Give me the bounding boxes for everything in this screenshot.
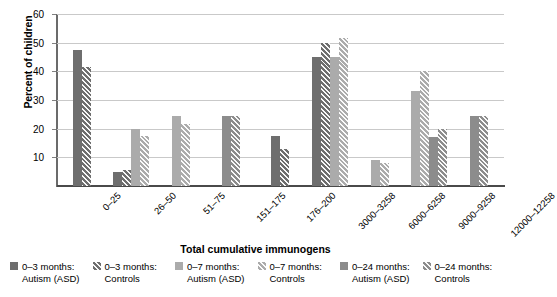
legend-swatch-icon [175,262,183,270]
x-tick-label: 151–175 [254,190,288,224]
legend-swatch-icon [10,262,18,270]
legend-label: 0–24 months: Autism (ASD) [352,261,410,284]
bar [140,136,149,186]
bar [122,170,131,186]
legend-item[interactable]: 0–7 months: Autism (ASD) [175,261,258,284]
legend-label: 0–24 months: Controls [435,261,493,284]
legend-item[interactable]: 0–24 months: Autism (ASD) [340,261,423,284]
x-tick-label: 6000–6258 [406,190,447,231]
legend-label: 0–7 months: Autism (ASD) [187,261,245,284]
bar [479,116,488,186]
legend-item[interactable]: 0–3 months: Controls [93,261,176,284]
y-tick-label: 60 [0,9,44,20]
bar [371,160,380,186]
x-tick-label: 12000–12258 [508,190,557,239]
y-tick-label: 20 [0,123,44,134]
legend-swatch-icon [258,262,266,270]
bar-group [355,14,405,186]
bar-group [107,14,157,186]
x-tick-label: 0–25 [100,190,123,213]
legend-label: 0–3 months: Autism (ASD) [22,261,80,284]
bar-group [57,14,107,186]
bar-group [305,14,355,186]
bar [280,149,289,186]
bar [339,38,348,186]
x-tick-label: 26–50 [151,190,177,216]
bar [312,57,321,186]
bar [438,129,447,186]
x-tick-label: 51–75 [201,190,227,216]
legend-swatch-icon [423,262,431,270]
x-tick-label: 176–200 [303,190,337,224]
bar-group [454,14,504,186]
y-tick-label: 40 [0,66,44,77]
bar [82,67,91,186]
bar-group [206,14,256,186]
bar [271,136,280,186]
chart-legend: 0–3 months: Autism (ASD)0–3 months: Cont… [10,261,505,284]
y-tick-label: 50 [0,37,44,48]
legend-label: 0–7 months: Controls [270,261,322,284]
legend-item[interactable]: 0–7 months: Controls [258,261,341,284]
y-tick-label: 30 [0,95,44,106]
bar [429,137,438,186]
legend-swatch-icon [340,262,348,270]
x-axis-title: Total cumulative immunogens [0,243,511,255]
bar [411,91,420,186]
bar [131,129,140,186]
bar-group [256,14,306,186]
x-tick-label: 3000–3258 [356,190,397,231]
x-tick-label: 9000–9258 [455,190,496,231]
bar [172,116,181,186]
bar [113,172,122,186]
bar [420,71,429,186]
legend-swatch-icon [93,262,101,270]
bar [330,57,339,186]
legend-item[interactable]: 0–24 months: Controls [423,261,506,284]
bar [470,116,479,186]
bar-group [156,14,206,186]
bar [222,116,231,186]
bar [231,116,240,186]
bar-group [405,14,455,186]
legend-label: 0–3 months: Controls [105,261,157,284]
y-tick-label: 10 [0,152,44,163]
plot-area [57,14,504,186]
bar [73,50,82,186]
legend-item[interactable]: 0–3 months: Autism (ASD) [10,261,93,284]
bar [181,124,190,186]
bar [321,43,330,186]
bar [380,163,389,186]
